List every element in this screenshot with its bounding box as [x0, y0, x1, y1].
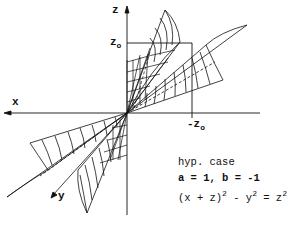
neg-z0-sub: o	[200, 123, 205, 132]
x-arrow-icon	[4, 111, 11, 115]
annotation-equation: (x + z)2 - y2 = z2	[178, 189, 287, 204]
annotation-params: a = 1, b = -1	[178, 172, 260, 184]
z-axis-label: z	[112, 4, 119, 16]
neg-z0-main: -z	[187, 118, 200, 130]
z-arrow-icon	[125, 6, 129, 13]
x-axis-label: x	[12, 96, 19, 108]
annotation-params-text: a = 1, b = -1	[178, 172, 260, 184]
annotation-case: hyp. case	[178, 156, 235, 168]
eq-part-c: = z	[257, 192, 282, 204]
lower-left-blade	[7, 113, 127, 197]
eq-part-a: (x + z)	[178, 192, 222, 204]
eq-sup-3: 2	[282, 189, 287, 198]
z0-main: z	[110, 36, 117, 48]
neg-z0-label: -zo	[187, 118, 205, 132]
z0-sub: o	[117, 41, 122, 50]
lower-petal	[78, 113, 127, 213]
y-axis-label: y	[58, 190, 65, 202]
z0-label: zo	[110, 36, 121, 50]
eq-part-b: - y	[227, 192, 252, 204]
y-arrow-icon	[51, 192, 57, 198]
